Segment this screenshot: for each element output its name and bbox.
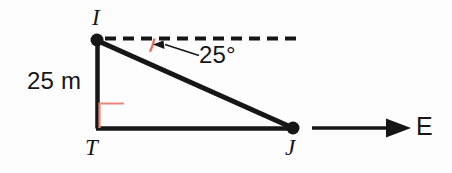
vertex-dot-I <box>91 34 104 47</box>
angle-measure-label: 25° <box>199 43 236 67</box>
right-angle-marker <box>100 104 125 129</box>
vertex-label-I: I <box>92 6 100 29</box>
east-arrow-head <box>386 119 411 138</box>
angle-leader-line <box>165 45 199 56</box>
vertex-label-T: T <box>85 136 98 159</box>
side-length-label: 25 m <box>27 69 81 93</box>
vertex-label-J: J <box>285 136 295 159</box>
geometry-diagram: I T J 25 m 25° E <box>0 0 452 173</box>
vertex-dot-J <box>287 122 300 135</box>
direction-label-east: E <box>416 114 433 139</box>
